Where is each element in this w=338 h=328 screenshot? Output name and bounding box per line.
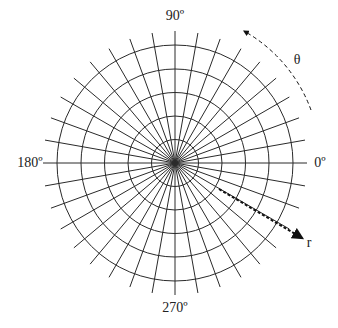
radial-lines xyxy=(43,31,307,295)
angle-label: 0º xyxy=(314,155,326,170)
angle-label: 90º xyxy=(166,8,185,23)
r-arrow: r xyxy=(219,189,312,250)
theta-arc-arrow xyxy=(244,31,311,110)
polar-grid-diagram: 90º0º180º270º θ r xyxy=(0,0,338,328)
r-label: r xyxy=(307,235,312,250)
theta-arrow: θ xyxy=(244,31,311,110)
angle-label: 270º xyxy=(162,300,188,315)
theta-label: θ xyxy=(294,52,301,67)
angle-label: 180º xyxy=(17,155,43,170)
